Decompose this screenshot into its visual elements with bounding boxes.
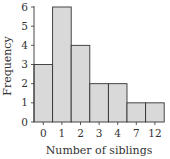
x-tick-label: 7 (133, 127, 140, 139)
x-tick-label: 12 (148, 127, 161, 139)
bar-1 (53, 7, 72, 122)
x-tick-label: 3 (96, 127, 103, 139)
y-tick-label: 3 (21, 58, 28, 70)
y-tick-label: 0 (21, 116, 28, 128)
x-axis-title: Number of siblings (46, 144, 153, 157)
x-tick-label: 0 (40, 127, 47, 139)
bar-4 (108, 84, 127, 122)
bar-3 (90, 84, 109, 122)
x-axis: 01234712 (40, 122, 162, 139)
y-tick-label: 5 (21, 20, 28, 32)
x-tick-label: 1 (59, 127, 66, 139)
y-axis: 0123456 (21, 1, 34, 128)
bar-12 (146, 103, 165, 122)
y-axis-title: Frequency (1, 35, 14, 95)
y-tick-label: 2 (21, 77, 28, 89)
histogram-chart: 0123456 01234712 Frequency Number of sib… (0, 0, 170, 159)
x-tick-label: 2 (77, 127, 84, 139)
y-tick-label: 6 (21, 1, 28, 13)
y-tick-label: 1 (21, 96, 28, 108)
y-tick-label: 4 (21, 39, 28, 51)
bar-2 (71, 45, 90, 122)
bar-0 (34, 65, 53, 123)
bar-7 (127, 103, 146, 122)
bars-group (34, 7, 164, 122)
x-tick-label: 4 (114, 127, 121, 139)
